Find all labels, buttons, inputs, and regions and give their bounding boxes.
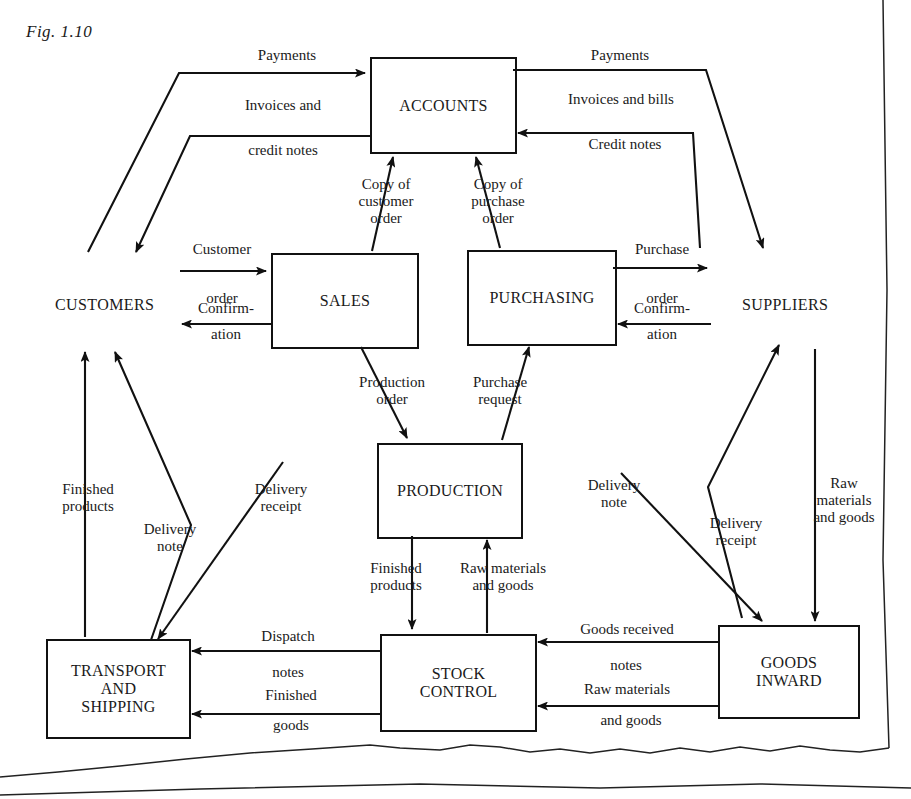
- flow-label-and-goods-bottom: and goods: [556, 712, 706, 729]
- flow-label-dispatch: Dispatch: [240, 628, 336, 645]
- process-box-accounts[interactable]: ACCOUNTS: [370, 57, 517, 154]
- flow-label-production-order: Production order: [340, 374, 444, 408]
- flow-label-payments-left: Payments: [232, 47, 342, 64]
- process-box-production[interactable]: PRODUCTION: [377, 443, 523, 539]
- flow-label-invoices-and-bills: Invoices and bills: [536, 91, 706, 108]
- flow-delivery-receipt-goodsinward-to-suppliers: [708, 345, 779, 618]
- flow-label-confirm-left: Confirm-: [183, 300, 269, 317]
- process-box-goods-inward-label: GOODS INWARD: [756, 654, 822, 690]
- diagram-canvas: Fig. 1.10 ACCOUNTS SALES PURCHASING PROD…: [0, 0, 911, 799]
- page-edge-bottom-outer: [0, 784, 911, 795]
- flow-label-ation-right: ation: [619, 326, 705, 343]
- flow-label-ation-left: ation: [183, 326, 269, 343]
- flow-label-finished: Finished: [243, 687, 339, 704]
- flow-label-copy-of-customer-order: Copy of customer order: [340, 176, 432, 227]
- flow-label-credit-notes-left: credit notes: [218, 142, 348, 159]
- flow-label-purchase: Purchase: [616, 241, 708, 258]
- flow-label-credit-notes-right: Credit notes: [555, 136, 695, 153]
- flow-label-confirm-right: Confirm-: [619, 300, 705, 317]
- external-entity-customers[interactable]: CUSTOMERS: [55, 296, 154, 314]
- process-box-stock-control[interactable]: STOCK CONTROL: [380, 634, 537, 732]
- flow-label-delivery-note-left: Delivery note: [128, 521, 212, 555]
- process-box-sales-label: SALES: [320, 292, 370, 310]
- flow-label-finished-products-mid: Finished products: [350, 560, 442, 594]
- flow-label-notes-goods-received: notes: [578, 657, 674, 674]
- process-box-accounts-label: ACCOUNTS: [399, 97, 488, 115]
- flow-label-delivery-receipt-left: Delivery receipt: [237, 481, 325, 515]
- page-edge-right: [883, 0, 889, 748]
- flow-label-raw-materials-mid: Raw materials and goods: [446, 560, 560, 594]
- flow-label-goods-finished: goods: [243, 717, 339, 734]
- flow-label-purchase-request: Purchase request: [452, 374, 548, 408]
- flow-label-delivery-receipt-right: Delivery receipt: [692, 515, 780, 549]
- flow-label-raw-materials-bottom: Raw materials: [552, 681, 702, 698]
- figure-caption: Fig. 1.10: [26, 22, 92, 42]
- process-box-purchasing[interactable]: PURCHASING: [467, 250, 617, 346]
- external-entity-suppliers[interactable]: SUPPLIERS: [742, 296, 828, 314]
- process-box-transport-and-shipping[interactable]: TRANSPORT AND SHIPPING: [46, 639, 191, 739]
- flow-label-raw-materials-right: Raw materials and goods: [796, 475, 892, 526]
- flow-label-invoices-and: Invoices and: [218, 97, 348, 114]
- flow-label-delivery-note-right: Delivery note: [572, 477, 656, 511]
- flow-label-notes-dispatch: notes: [240, 664, 336, 681]
- process-box-stock-control-label: STOCK CONTROL: [420, 665, 498, 701]
- flow-label-payments-right: Payments: [560, 47, 680, 64]
- process-box-sales[interactable]: SALES: [271, 253, 419, 349]
- flow-label-finished-products-left: Finished products: [42, 481, 134, 515]
- process-box-production-label: PRODUCTION: [397, 482, 503, 500]
- flow-label-copy-of-purchase-order: Copy of purchase order: [452, 176, 544, 227]
- flow-label-goods-received: Goods received: [552, 621, 702, 638]
- flow-label-customer: Customer: [176, 241, 268, 258]
- process-box-goods-inward[interactable]: GOODS INWARD: [718, 625, 860, 719]
- page-edge-bottom-torn: [0, 745, 889, 777]
- process-box-purchasing-label: PURCHASING: [489, 289, 594, 307]
- process-box-transport-and-shipping-label: TRANSPORT AND SHIPPING: [71, 662, 166, 716]
